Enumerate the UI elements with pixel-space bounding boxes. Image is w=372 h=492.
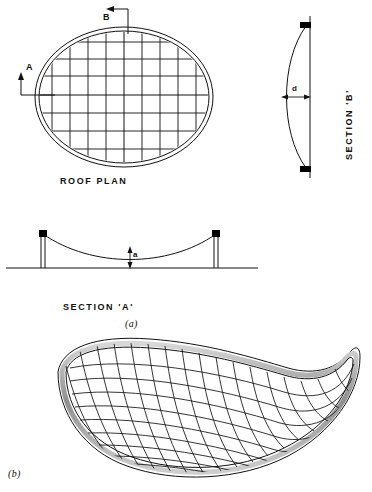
section-a-label: SECTION 'A' [63,302,134,312]
section-marker-b-letter: B [103,12,110,22]
section-b-label: SECTION 'B' [344,89,354,160]
section-a-dimension-a [128,246,133,269]
dimension-d-letter: d [292,84,297,93]
section-b-support-bottom [300,166,311,172]
roof-plan-cable-grid [34,24,214,170]
section-b-support-top [300,22,311,28]
roof-plan-label: ROOF PLAN [60,176,127,186]
section-b-dimension-d [281,95,311,100]
figure-caption-a: (a) [125,318,138,329]
section-b-view [281,16,311,178]
section-marker-a-letter: A [26,62,33,72]
section-a-cable-curve [43,234,216,260]
perspective-view [58,338,360,477]
engineering-drawing [0,0,372,492]
dimension-a-letter: a [133,250,137,259]
section-a-view [6,230,258,269]
perspective-rim-band [62,343,356,472]
roof-plan-view [18,6,214,170]
figure-caption-b: (b) [8,468,21,479]
